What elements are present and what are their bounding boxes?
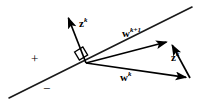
label-z-top: zk	[79, 18, 87, 29]
perceptron-update-figure: zk wk+1 wk zk + −	[0, 0, 205, 105]
label-w-current-sup: k	[128, 70, 132, 78]
label-w-next: wk+1	[122, 28, 141, 39]
label-z-right-sup: k	[176, 50, 180, 58]
label-z-right: zk	[171, 52, 179, 63]
label-z-top-sup: k	[84, 16, 88, 24]
label-w-next-base: w	[122, 27, 130, 39]
negative-half-plane-sign: −	[43, 82, 50, 95]
positive-half-plane-sign: +	[31, 52, 38, 65]
label-w-next-sup: k+1	[130, 26, 141, 34]
w-current-arrow	[86, 63, 186, 77]
label-w-current-base: w	[120, 71, 128, 83]
label-w-current: wk	[120, 72, 131, 83]
w-next-arrow	[86, 42, 167, 63]
